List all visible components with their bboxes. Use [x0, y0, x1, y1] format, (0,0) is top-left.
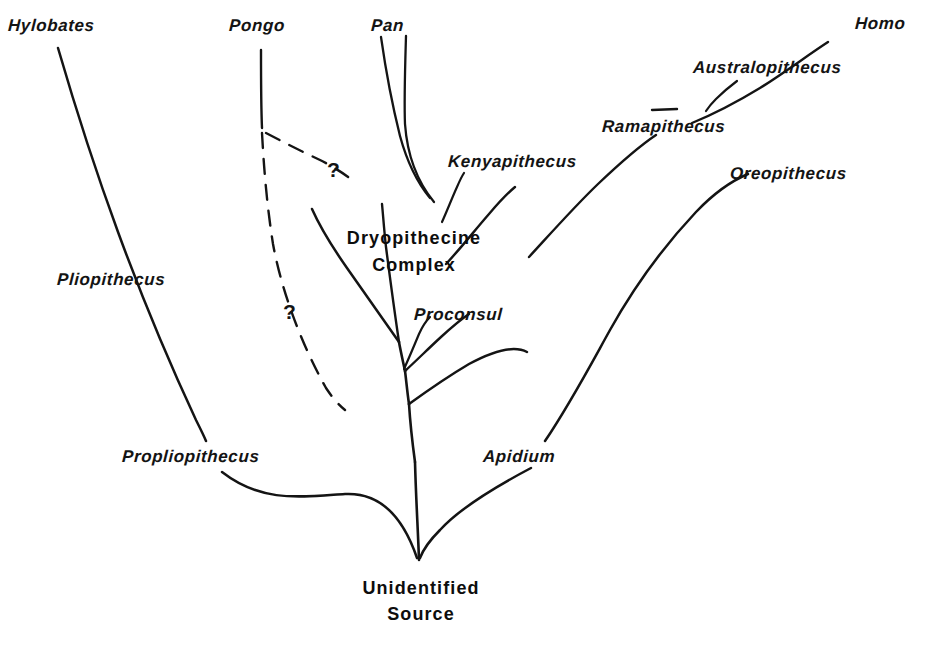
branch-pongo-stem	[261, 50, 262, 128]
branch-root-trunk	[415, 462, 419, 560]
branch-complex-right-spur	[442, 173, 464, 222]
branch-australopithecus-spur	[706, 81, 737, 111]
taxon-label-pan: Pan	[370, 16, 404, 36]
taxon-label-pliopithecus: Pliopithecus	[56, 270, 165, 290]
question-mark-lower: ?	[283, 300, 296, 324]
phylogenetic-tree-figure: { "figure": { "kind": "phylogenetic-tree…	[0, 0, 940, 649]
branch-hylobates-pliopithecus	[58, 48, 206, 441]
branch-stem-upper	[399, 342, 405, 371]
taxon-label-ramapithecus: Ramapithecus	[601, 117, 725, 137]
branch-stem-mid	[405, 371, 409, 404]
taxon-label-homo: Homo	[854, 14, 906, 34]
taxon-label-kenyapithecus: Kenyapithecus	[447, 152, 577, 172]
branch-kenyapithecus	[446, 187, 515, 264]
branch-australopithecus-homo	[692, 42, 828, 123]
node-label-unidentified-source-line2: Source	[341, 604, 501, 625]
taxon-label-apidium: Apidium	[482, 447, 555, 467]
branch-pan-right	[405, 36, 434, 202]
node-label-unidentified-source-line1: Unidentified	[341, 578, 501, 599]
taxon-label-pongo: Pongo	[228, 16, 285, 36]
branch-apidium	[420, 468, 531, 558]
taxon-label-propliopithecus: Propliopithecus	[121, 447, 260, 467]
branch-oreopithecus	[545, 174, 748, 441]
branch-pongo-uncertain-right	[266, 133, 356, 183]
node-label-dryopithecine-line1: Dryopithecine	[329, 228, 499, 249]
taxon-label-australopithecus: Australopithecus	[692, 58, 842, 78]
branch-ramapithecus-tick	[652, 109, 677, 110]
taxon-label-proconsul: Proconsul	[413, 305, 503, 325]
branch-main-stem	[409, 404, 415, 462]
taxon-label-hylobates: Hylobates	[7, 16, 95, 36]
branch-propliopithecus	[222, 472, 417, 558]
taxon-label-oreopithecus: Oreopithecus	[729, 164, 847, 184]
question-mark-upper: ?	[327, 158, 340, 182]
node-label-dryopithecine-line2: Complex	[329, 255, 499, 276]
branch-proconsul-lower	[409, 349, 527, 404]
